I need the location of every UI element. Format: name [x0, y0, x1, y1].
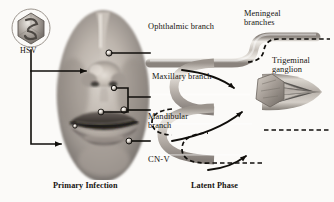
label-meningeal-branches: Meningeal branches: [244, 10, 300, 28]
label-ophthalmic-branch: Ophthalmic branch: [148, 22, 214, 31]
label-mandibular-line1: Mandibular: [148, 112, 188, 121]
hsv-feed-line: [31, 50, 61, 144]
label-trigeminal-ganglion: Trigeminal ganglion: [272, 57, 330, 75]
connector-maxillary-lower: [104, 98, 128, 112]
label-ganglion-line2: ganglion: [272, 65, 302, 74]
connector-maxillary: [117, 88, 150, 97]
label-meningeal-line2: branches: [244, 18, 275, 27]
caption-primary-infection: Primary Infection: [53, 182, 118, 191]
label-meningeal-line1: Meningeal: [244, 9, 281, 18]
hsv-trigeminal-figure: HSV Ophthalmic branch Meningeal branches…: [0, 0, 334, 202]
label-ganglion-line1: Trigeminal: [272, 56, 310, 65]
caption-latent-phase: Latent Phase: [191, 182, 238, 191]
label-maxillary-branch: Maxillary branch: [152, 72, 212, 81]
label-cn-v: CN-V: [148, 155, 170, 164]
label-mandibular-branch: Mandibular branch: [148, 113, 196, 131]
hsv-label: HSV: [20, 47, 37, 56]
label-mandibular-line2: branch: [148, 121, 171, 130]
